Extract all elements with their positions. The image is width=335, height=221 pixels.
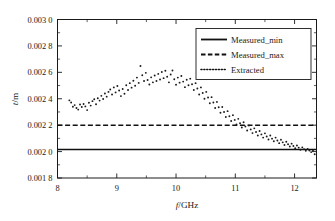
data-point — [200, 86, 202, 88]
x-tick-label: 9 — [115, 184, 119, 193]
data-point — [230, 120, 232, 122]
data-point — [93, 98, 95, 100]
data-point — [227, 110, 229, 112]
data-point — [305, 150, 307, 152]
y-tick-label: 0.002 8 — [27, 42, 52, 51]
data-point — [150, 76, 152, 78]
data-point — [163, 77, 165, 79]
data-point — [253, 127, 255, 129]
data-point — [132, 80, 134, 82]
data-point — [173, 78, 175, 80]
data-point — [241, 127, 243, 129]
data-point — [92, 100, 94, 102]
x-tick-label: 10 — [172, 184, 180, 193]
data-point — [291, 143, 293, 145]
data-point — [90, 105, 92, 107]
data-point — [177, 77, 179, 79]
scatter-chart: 0.001 80.002 00.002 20.002 40.002 60.002… — [0, 0, 335, 221]
data-point — [186, 79, 188, 81]
data-point — [301, 146, 303, 148]
data-point — [166, 76, 168, 78]
data-point — [264, 132, 266, 134]
data-point — [248, 124, 250, 126]
data-point — [216, 101, 218, 103]
y-tick-labels: 0.001 80.002 00.002 20.002 40.002 60.002… — [27, 16, 53, 184]
y-tick-label: 0.002 6 — [27, 68, 52, 77]
data-point — [287, 143, 289, 145]
data-point — [68, 99, 70, 101]
x-tick-label: 8 — [55, 184, 59, 193]
data-point — [232, 114, 234, 116]
data-point — [109, 89, 111, 91]
data-point — [102, 98, 104, 100]
y-tick-label: 0.002 2 — [27, 121, 52, 130]
data-point — [282, 141, 284, 143]
data-point — [124, 93, 126, 95]
data-point — [268, 138, 270, 140]
data-point — [157, 73, 159, 75]
legend-label: Extracted — [231, 65, 265, 75]
data-point — [108, 91, 110, 93]
data-point — [131, 87, 133, 89]
data-point — [280, 139, 282, 141]
data-point — [202, 92, 204, 94]
data-point — [99, 100, 101, 102]
data-point — [104, 93, 106, 95]
data-point — [236, 123, 238, 125]
data-point — [246, 130, 248, 132]
data-point — [310, 151, 312, 153]
data-point — [189, 78, 191, 80]
data-point — [292, 145, 294, 147]
data-point — [191, 83, 193, 85]
data-point — [180, 75, 182, 77]
data-point — [252, 132, 254, 134]
data-point — [314, 153, 316, 155]
data-point — [307, 148, 309, 150]
data-point — [113, 86, 115, 88]
x-tick-label: 11 — [231, 184, 239, 193]
data-point — [116, 85, 118, 87]
data-point — [214, 107, 216, 109]
data-point — [196, 87, 198, 89]
data-point — [243, 121, 245, 123]
y-tick-label: 0.001 8 — [27, 174, 52, 183]
data-point — [86, 109, 88, 111]
data-point — [134, 85, 136, 87]
data-point — [212, 101, 214, 103]
data-point — [106, 96, 108, 98]
data-point — [298, 147, 300, 149]
data-point — [284, 144, 286, 146]
data-point — [140, 65, 142, 67]
data-point — [172, 70, 174, 72]
data-point — [175, 84, 177, 86]
data-point — [97, 97, 99, 99]
data-point — [83, 103, 85, 105]
data-point — [244, 126, 246, 128]
data-point — [289, 146, 291, 148]
data-point — [193, 89, 195, 91]
data-point — [278, 142, 280, 144]
data-point — [147, 79, 149, 81]
data-point — [273, 140, 275, 142]
data-point — [156, 80, 158, 82]
data-point — [239, 122, 241, 124]
y-axis-title: t/m — [10, 93, 20, 105]
data-point — [211, 96, 213, 98]
data-point — [296, 145, 298, 147]
data-point — [115, 91, 117, 93]
data-point — [198, 94, 200, 96]
data-point — [164, 70, 166, 72]
data-point — [260, 133, 262, 135]
data-point — [225, 116, 227, 118]
x-tick-label: 12 — [290, 184, 298, 193]
data-point — [148, 84, 150, 86]
data-point — [111, 94, 113, 96]
data-point — [266, 136, 268, 138]
data-point — [168, 81, 170, 83]
x-tick-labels: 89101112 — [55, 184, 298, 193]
data-point — [303, 148, 305, 150]
data-point — [223, 111, 225, 113]
data-point — [170, 73, 172, 75]
data-point — [136, 77, 138, 79]
data-point — [152, 81, 154, 83]
